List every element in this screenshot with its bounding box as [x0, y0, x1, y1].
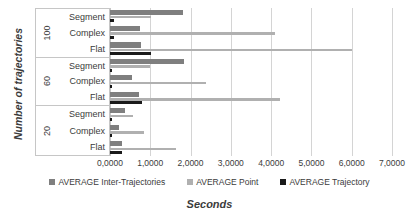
bar-group [110, 140, 392, 156]
legend-item[interactable]: AVERAGE Inter-Trajectories [49, 177, 165, 187]
y-axis-category-label: Complex [57, 74, 109, 90]
bar [110, 98, 280, 100]
bar [110, 65, 150, 67]
y-axis-category-group: Segment Complex Flat [57, 9, 109, 58]
y-axis-group-labels: 100 60 20 [35, 8, 57, 156]
bar [110, 10, 183, 15]
legend-item[interactable]: AVERAGE Point [187, 177, 258, 187]
bar [110, 101, 142, 104]
bar-group [110, 41, 392, 57]
x-axis-tick-label: 4,0000 [258, 158, 284, 168]
bar [110, 19, 114, 22]
bar-group [110, 123, 392, 139]
bar [110, 85, 112, 88]
y-axis-category-label: Flat [57, 139, 109, 155]
y-axis-category-label: Flat [57, 89, 109, 105]
y-axis-category-label: Complex [57, 123, 109, 139]
bar-group [110, 57, 392, 73]
y-axis-category-label: Segment [57, 58, 109, 74]
bar [110, 92, 139, 97]
y-axis-group: 20 [36, 106, 57, 155]
x-axis-tick-label: 2,0000 [178, 158, 204, 168]
bar [110, 75, 132, 80]
bar [110, 141, 122, 146]
bar [110, 26, 140, 31]
x-axis-tick-label: 1,0000 [137, 158, 163, 168]
y-axis-category-label: Complex [57, 25, 109, 41]
x-axis-tick-label: 7,0000 [379, 158, 405, 168]
y-axis-category-label: Segment [57, 9, 109, 25]
legend-swatch-icon [280, 179, 286, 185]
y-axis-group-label: 20 [42, 126, 52, 136]
bar-group [110, 24, 392, 40]
y-axis-group: 60 [36, 58, 57, 107]
bar [110, 59, 184, 64]
bar [110, 108, 125, 113]
bar [110, 69, 112, 72]
bar [110, 148, 176, 150]
legend-label: AVERAGE Point [196, 177, 258, 187]
x-axis-tick-label: 6,0000 [339, 158, 365, 168]
bar [110, 131, 144, 133]
bar [110, 125, 119, 130]
y-axis-category-label: Segment [57, 106, 109, 122]
y-axis-category-label: Flat [57, 41, 109, 57]
bar-group [110, 8, 392, 24]
y-axis-group-label: 60 [42, 76, 52, 86]
y-axis-category-group: Segment Complex Flat [57, 58, 109, 107]
y-axis-group: 100 [36, 9, 57, 58]
y-axis-category-labels: Segment Complex Flat Segment Complex Fla… [57, 8, 110, 156]
gridline [392, 8, 393, 156]
bar-group [110, 90, 392, 106]
y-axis-title: Number of trajectories [12, 14, 24, 154]
bar [110, 151, 122, 154]
legend-label: AVERAGE Trajectory [289, 177, 369, 187]
chart-legend: AVERAGE Inter-TrajectoriesAVERAGE PointA… [0, 177, 419, 187]
bar [110, 49, 352, 51]
y-axis-group-label: 100 [42, 25, 52, 40]
legend-label: AVERAGE Inter-Trajectories [58, 177, 165, 187]
bar [110, 16, 151, 18]
x-axis-title: Seconds [0, 198, 419, 210]
bar [110, 42, 141, 47]
bar [110, 36, 114, 39]
bar-chart: Number of trajectories 100 60 20 Segment… [0, 0, 419, 223]
bar [110, 32, 275, 34]
bar-group [110, 74, 392, 90]
legend-swatch-icon [49, 179, 55, 185]
legend-swatch-icon [187, 179, 193, 185]
bar [110, 82, 206, 84]
bar-group [110, 107, 392, 123]
x-axis-tick-label: 3,0000 [218, 158, 244, 168]
y-axis-category-group: Segment Complex Flat [57, 106, 109, 155]
x-axis-tick-labels: 0,00001,00002,00003,00004,00005,00006,00… [110, 158, 392, 172]
x-axis-tick-label: 0,0000 [97, 158, 123, 168]
bar [110, 134, 112, 137]
legend-item[interactable]: AVERAGE Trajectory [280, 177, 369, 187]
x-axis-tick-label: 5,0000 [298, 158, 324, 168]
bar [110, 115, 133, 117]
bar [110, 118, 112, 121]
plot-area [110, 8, 392, 156]
bar [110, 52, 151, 55]
